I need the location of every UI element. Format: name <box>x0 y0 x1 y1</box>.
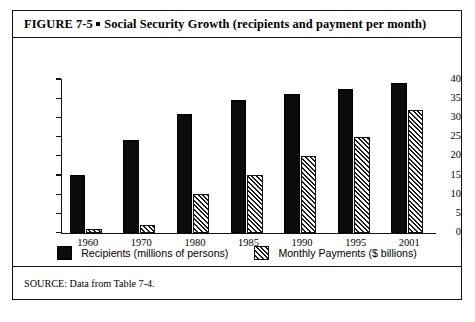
y-axis-tick <box>56 213 61 214</box>
legend-label-payments: Monthly Payments ($ billions) <box>278 247 416 259</box>
legend-label-recipients: Recipients (millions of persons) <box>81 247 228 259</box>
y-axis-tick-label: 0 <box>435 227 461 238</box>
bar-monthly-payments <box>140 225 156 233</box>
figure-title-text: Social Security Growth (recipients and p… <box>104 17 426 31</box>
y-axis-tick-label: 35 <box>435 93 461 104</box>
y-axis-tick <box>56 155 61 156</box>
y-axis-tick-label: 30 <box>435 112 461 123</box>
figure-label: FIGURE 7-5 <box>24 17 93 31</box>
bar-group <box>338 79 370 233</box>
bar-recipients <box>338 89 354 233</box>
x-axis-line <box>61 233 436 234</box>
bar-group <box>391 79 423 233</box>
bar-recipients <box>231 100 247 232</box>
source-note: SOURCE: Data from Table 7-4. <box>13 278 155 289</box>
legend-swatch-recipients-icon <box>57 246 72 260</box>
bar-group <box>284 79 316 233</box>
bar-monthly-payments <box>354 137 370 233</box>
bar-recipients <box>391 83 407 233</box>
bar-group <box>231 79 263 233</box>
y-axis-tick-label: 20 <box>435 150 461 161</box>
bar-monthly-payments <box>247 175 263 233</box>
bar-group <box>177 79 209 233</box>
bar-monthly-payments <box>301 156 317 233</box>
bar-monthly-payments <box>86 229 102 233</box>
y-axis-tick <box>56 136 61 137</box>
figure-title-band: FIGURE 7-5Social Security Growth (recipi… <box>13 11 461 38</box>
bar-monthly-payments <box>193 194 209 232</box>
bar-recipients <box>123 140 139 232</box>
bar-recipients <box>177 114 193 233</box>
page-title: FIGURE 7-5Social Security Growth (recipi… <box>13 17 426 32</box>
y-axis-tick <box>56 232 61 233</box>
y-axis-tick-label: 15 <box>435 170 461 181</box>
y-axis-tick-label: 10 <box>435 189 461 200</box>
y-axis-tick <box>56 117 61 118</box>
figure-source-band: SOURCE: Data from Table 7-4. <box>13 266 461 299</box>
chart-legend: Recipients (millions of persons) Monthly… <box>13 239 461 267</box>
chart-plot-area: 0510152025303540 19601970198019851990199… <box>13 38 461 240</box>
y-axis-tick-label: 25 <box>435 131 461 142</box>
y-axis-line <box>61 79 62 233</box>
legend-item-payments: Monthly Payments ($ billions) <box>254 246 416 260</box>
legend-swatch-payments-icon <box>254 246 269 260</box>
bar-recipients <box>70 175 86 233</box>
title-bullet-icon <box>96 22 101 27</box>
bar-group <box>70 79 102 233</box>
y-axis-tick-label: 5 <box>435 208 461 219</box>
figure-frame: FIGURE 7-5Social Security Growth (recipi… <box>12 10 462 300</box>
bar-recipients <box>284 94 300 232</box>
y-axis-tick <box>56 194 61 195</box>
y-axis-tick <box>56 98 61 99</box>
y-axis-tick-label: 40 <box>435 74 461 85</box>
bar-monthly-payments <box>408 110 424 233</box>
y-axis-tick <box>56 78 61 79</box>
y-axis-tick <box>56 174 61 175</box>
legend-item-recipients: Recipients (millions of persons) <box>57 246 228 260</box>
bar-group <box>123 79 155 233</box>
